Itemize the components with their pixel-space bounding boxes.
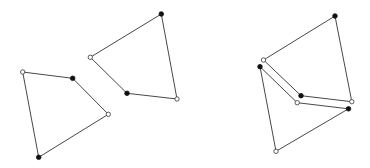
open-vertex-dot: [106, 112, 110, 116]
open-vertex-dot: [261, 58, 265, 62]
open-vertex-dot: [175, 97, 179, 101]
filled-vertex-dot: [333, 14, 338, 19]
panel-separated: [21, 12, 180, 160]
filled-vertex-dot: [299, 93, 304, 98]
open-vertex-dot: [88, 55, 92, 59]
quad-edges: [90, 14, 177, 99]
diagram-canvas: [0, 0, 370, 168]
open-vertex-dot: [274, 149, 278, 153]
quad-edges: [264, 16, 352, 102]
right-quad: [88, 12, 179, 102]
filled-vertex-dot: [70, 76, 75, 81]
filled-vertex-dot: [36, 155, 41, 160]
filled-vertex-dot: [125, 91, 130, 96]
quad-edges: [260, 67, 349, 152]
panel-joined: [258, 14, 354, 154]
filled-vertex-dot: [346, 107, 351, 112]
filled-vertex-dot: [159, 12, 164, 17]
open-vertex-dot: [295, 101, 299, 105]
quadrilateral-diagram: [0, 0, 370, 168]
lower-quad: [258, 64, 351, 153]
open-vertex-dot: [21, 70, 25, 74]
filled-vertex-dot: [258, 64, 263, 69]
upper-quad: [261, 14, 354, 104]
quad-edges: [23, 72, 109, 157]
left-quad: [21, 70, 111, 160]
open-vertex-dot: [350, 100, 354, 104]
